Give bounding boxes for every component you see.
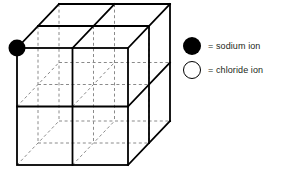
- legend-item-sodium: = sodium ion: [183, 34, 283, 58]
- sodium-ion-marker: [9, 40, 26, 57]
- legend-label-sodium: = sodium ion: [208, 41, 260, 51]
- nacl-unit-cell-diagram: [0, 0, 283, 171]
- legend-item-chloride: = chloride ion: [183, 58, 283, 82]
- sodium-ion-icon: [183, 37, 201, 55]
- chloride-ion-icon: [183, 61, 201, 79]
- legend-label-chloride: = chloride ion: [208, 65, 263, 75]
- legend: = sodium ion = chloride ion: [183, 34, 283, 82]
